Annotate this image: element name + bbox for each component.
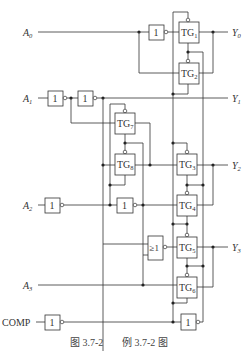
not-gate-label: 1	[50, 317, 55, 328]
figure-title: 例 3.7-2 图	[122, 336, 168, 348]
not-gate-label: 1	[186, 317, 191, 328]
output-label-y3: Y3	[232, 242, 242, 254]
input-label-a3: A3	[22, 280, 33, 292]
nor-gate-label: ≥1	[150, 243, 159, 253]
input-labels: A0 A1 A2 A3 COMP	[2, 27, 33, 328]
input-label-a1: A1	[22, 93, 32, 105]
comp-section: 1 1	[36, 314, 203, 330]
or-gate-section: ≥1	[143, 236, 177, 260]
not-gate-label: 1	[122, 200, 127, 211]
output-label-y0: Y0	[232, 27, 242, 39]
not-gate-label: 1	[83, 93, 88, 104]
figure-number: 图 3.7-2	[70, 337, 103, 348]
not-gate-label: 1	[154, 27, 159, 38]
not-gate-label: 1	[50, 200, 55, 211]
input-label-comp: COMP	[2, 317, 31, 328]
output-label-y1: Y1	[232, 93, 241, 105]
a3-section	[38, 283, 177, 286]
not-gate-label: 1	[53, 93, 58, 104]
output-labels: Y0 Y1 Y2 Y3	[232, 27, 242, 254]
circuit-figure: 1 1 1	[0, 0, 245, 351]
input-label-a2: A2	[22, 200, 33, 212]
circuit-diagram: 1 1 1	[0, 0, 245, 351]
output-label-y2: Y2	[232, 160, 242, 172]
input-label-a0: A0	[22, 27, 33, 39]
tg7-tg8-section	[101, 104, 177, 285]
